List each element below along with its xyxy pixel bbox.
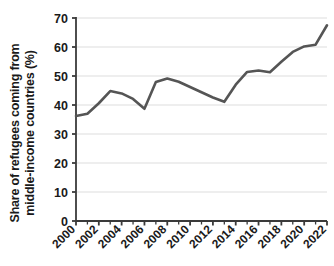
x-axis: 2000200220042006200820102012201420162018… bbox=[49, 221, 329, 251]
x-axis-tick-label: 2020 bbox=[278, 222, 307, 251]
x-axis-tick-label: 2016 bbox=[232, 222, 261, 251]
x-axis-tick-label: 2012 bbox=[186, 222, 215, 251]
x-axis-tick-label: 2006 bbox=[118, 222, 147, 251]
line-chart: Share of refugees coming from middle-inc… bbox=[0, 0, 334, 266]
x-axis-tick-label: 2014 bbox=[209, 222, 238, 251]
plot-area: 010203040506070 200020022004200620082010… bbox=[0, 0, 334, 266]
y-axis-tick-label: 10 bbox=[54, 186, 68, 200]
x-axis-tick-label: 2008 bbox=[141, 222, 170, 251]
y-axis-tick-label: 20 bbox=[54, 157, 68, 171]
x-axis-tick-label: 2018 bbox=[255, 222, 284, 251]
y-axis-tick-label: 70 bbox=[54, 12, 68, 26]
x-axis-tick-label: 2002 bbox=[72, 222, 101, 251]
x-axis-tick-label: 2004 bbox=[95, 222, 124, 251]
x-axis-tick-label: 2022 bbox=[300, 222, 329, 251]
y-axis-tick-label: 60 bbox=[54, 41, 68, 55]
y-axis: 010203040506070 bbox=[54, 12, 76, 229]
data-line-group bbox=[76, 25, 327, 116]
x-axis-tick-label: 2010 bbox=[163, 222, 192, 251]
gridlines bbox=[76, 18, 327, 192]
y-axis-tick-label: 40 bbox=[54, 99, 68, 113]
data-line bbox=[76, 25, 327, 116]
y-axis-tick-label: 30 bbox=[54, 128, 68, 142]
y-axis-tick-label: 50 bbox=[54, 70, 68, 84]
x-axis-tick-label: 2000 bbox=[49, 222, 78, 251]
